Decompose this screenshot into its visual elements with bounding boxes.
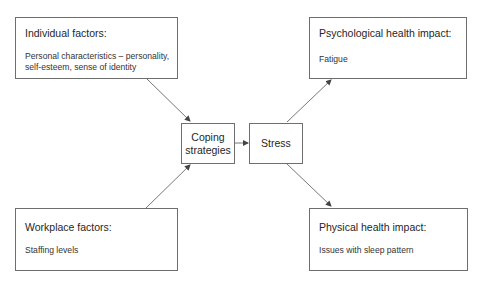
physical-impact-box: Physical health impact: Issues with slee…: [309, 208, 468, 271]
psychological-impact-box: Psychological health impact: Fatigue: [309, 17, 467, 79]
individual-factors-body-line1: Personal characteristics – personality,: [25, 51, 169, 62]
stress-box: Stress: [249, 123, 303, 164]
individual-factors-body: Personal characteristics – personality, …: [25, 51, 169, 73]
workplace-factors-box: Workplace factors: Staffing levels: [15, 208, 178, 271]
workplace-factors-body: Staffing levels: [25, 245, 78, 256]
arrow-stress-to-psychological: [287, 80, 331, 122]
physical-impact-body: Issues with sleep pattern: [319, 245, 414, 256]
individual-factors-box: Individual factors: Personal characteris…: [15, 17, 178, 79]
coping-strategies-box: Coping strategies: [181, 123, 235, 164]
workplace-factors-title: Workplace factors:: [25, 221, 112, 233]
coping-line2: strategies: [185, 144, 231, 157]
stress-label: Stress: [261, 137, 291, 150]
arrow-stress-to-physical: [287, 164, 331, 206]
individual-factors-title: Individual factors:: [25, 27, 107, 39]
psychological-impact-title: Psychological health impact:: [319, 27, 452, 39]
arrow-workplace-to-coping: [146, 165, 190, 208]
coping-line1: Coping: [185, 131, 231, 144]
coping-strategies-label: Coping strategies: [185, 131, 231, 157]
individual-factors-body-line2: self-esteem, sense of identity: [25, 62, 169, 73]
physical-impact-title: Physical health impact:: [319, 221, 426, 233]
psychological-impact-body: Fatigue: [319, 54, 348, 65]
arrow-individual-to-coping: [147, 79, 190, 121]
